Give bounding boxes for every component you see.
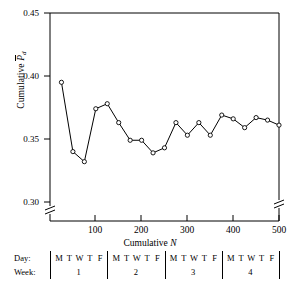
day-cell: F xyxy=(151,253,163,263)
x-axis-title: Cumulative N xyxy=(0,238,300,248)
data-point xyxy=(105,102,109,106)
data-point xyxy=(128,138,132,142)
y-axis-title: Cumulative Pd xyxy=(16,10,28,150)
axis-break-left-icon xyxy=(45,206,55,214)
data-point xyxy=(59,80,63,84)
data-point xyxy=(231,117,235,121)
data-point xyxy=(243,126,247,130)
data-point xyxy=(71,150,75,154)
week-divider xyxy=(279,251,280,279)
y-axis-title-prefix: Cumulative xyxy=(16,61,26,109)
week-divider xyxy=(165,251,166,279)
x-tick-label-300: 300 xyxy=(167,225,207,235)
y-axis-title-symbol: P xyxy=(16,55,26,61)
week-divider xyxy=(222,251,223,279)
data-point xyxy=(254,115,258,119)
week-cell: 2 xyxy=(113,267,159,277)
x-tick-label-500: 500 xyxy=(259,225,299,235)
data-point xyxy=(220,113,224,117)
axis-break-right-icon xyxy=(274,200,284,208)
y-tick-label-0.30: 0.30 xyxy=(5,197,39,207)
data-series xyxy=(59,80,281,164)
series-line xyxy=(61,82,279,161)
x-tick-label-400: 400 xyxy=(213,225,253,235)
week-cell: 4 xyxy=(227,267,273,277)
week-cell: 1 xyxy=(56,267,102,277)
x-axis-title-symbol: N xyxy=(170,238,176,248)
x-axis-title-prefix: Cumulative xyxy=(123,238,170,248)
day-cell: F xyxy=(266,253,278,263)
day-row-label: Day: xyxy=(14,253,31,263)
x-tick-label-100: 100 xyxy=(75,225,115,235)
day-cell: F xyxy=(209,253,221,263)
data-point xyxy=(277,123,281,127)
data-point xyxy=(140,138,144,142)
data-point xyxy=(174,121,178,125)
week-cell: 3 xyxy=(170,267,216,277)
data-point xyxy=(197,121,201,125)
data-point xyxy=(117,121,121,125)
week-divider xyxy=(50,251,51,279)
x-tick-marks xyxy=(95,215,279,221)
week-row-label: Week: xyxy=(14,267,36,277)
data-point xyxy=(162,146,166,150)
x-tick-label-200: 200 xyxy=(121,225,161,235)
data-point xyxy=(265,118,269,122)
day-cell: F xyxy=(94,253,106,263)
data-point xyxy=(208,133,212,137)
chart-figure xyxy=(0,0,300,293)
week-divider xyxy=(107,251,108,279)
y-tick-marks xyxy=(44,13,50,202)
day-week-table: Day: Week: MTWTF1MTWTF2MTWTF3MTWTF4 xyxy=(0,251,300,293)
data-point xyxy=(151,151,155,155)
data-point xyxy=(82,160,86,164)
data-point xyxy=(94,107,98,111)
data-point xyxy=(185,133,189,137)
